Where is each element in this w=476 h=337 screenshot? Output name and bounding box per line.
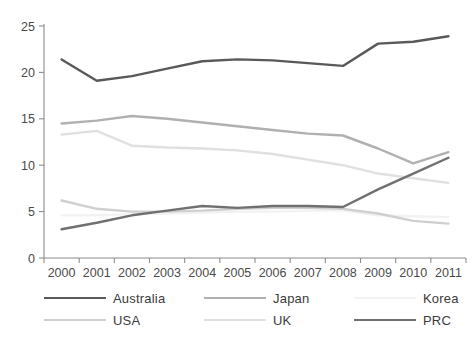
legend-item-australia[interactable]: Australia <box>44 291 204 306</box>
legend-swatch-uk <box>204 319 266 321</box>
legend-item-japan[interactable]: Japan <box>204 291 354 306</box>
legend-item-prc[interactable]: PRC <box>354 313 464 328</box>
legend-row-2: USA UK PRC <box>44 309 464 331</box>
x-tick-label: 2003 <box>153 266 181 280</box>
y-tick-label: 15 <box>21 112 35 126</box>
y-axis: 0510152025 <box>21 20 44 266</box>
legend-swatch-australia <box>44 297 106 299</box>
legend-label-uk: UK <box>273 313 291 328</box>
legend-swatch-prc <box>354 319 416 321</box>
x-tick-label: 2002 <box>118 266 146 280</box>
plot-area: 0510152025 20002001200220032004200520062… <box>0 0 476 287</box>
x-tick-label: 2001 <box>83 266 111 280</box>
y-tick-label: 25 <box>21 20 35 34</box>
x-axis: 2000200120022003200420052006200720082009… <box>44 258 466 280</box>
legend-swatch-usa <box>44 319 106 321</box>
legend-item-usa[interactable]: USA <box>44 313 204 328</box>
y-tick-label: 0 <box>28 252 35 266</box>
y-tick-label: 5 <box>28 205 35 219</box>
legend-label-australia: Australia <box>113 291 165 306</box>
legend-swatch-japan <box>204 297 266 299</box>
y-tick-label: 10 <box>21 159 35 173</box>
legend-label-japan: Japan <box>273 291 309 306</box>
legend-row-1: Australia Japan Korea <box>44 287 464 309</box>
x-tick-label: 2004 <box>188 266 216 280</box>
x-tick-label: 2007 <box>294 266 322 280</box>
legend-item-uk[interactable]: UK <box>204 313 354 328</box>
series-line-prc <box>62 158 449 229</box>
y-tick-label: 20 <box>21 66 35 80</box>
legend-label-usa: USA <box>113 313 140 328</box>
legend-label-prc: PRC <box>423 313 451 328</box>
series-line-uk <box>62 131 449 183</box>
chart-legend: Australia Japan Korea USA UK PRC <box>44 287 464 333</box>
series-line-australia <box>62 36 449 81</box>
x-tick-label: 2011 <box>435 266 462 280</box>
x-tick-label: 2010 <box>399 266 427 280</box>
data-series-group <box>62 36 449 229</box>
x-tick-label: 2008 <box>329 266 357 280</box>
x-tick-label: 2006 <box>259 266 287 280</box>
x-tick-label: 2009 <box>364 266 392 280</box>
x-tick-label: 2005 <box>224 266 252 280</box>
line-chart: 0510152025 20002001200220032004200520062… <box>0 0 476 337</box>
legend-item-korea[interactable]: Korea <box>354 291 464 306</box>
legend-label-korea: Korea <box>423 291 459 306</box>
legend-swatch-korea <box>354 297 416 299</box>
x-tick-label: 2000 <box>48 266 76 280</box>
